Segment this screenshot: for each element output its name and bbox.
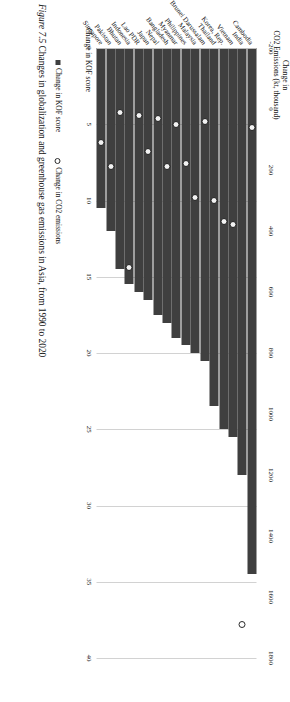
legend-label: Change in KOF score <box>54 68 63 132</box>
bar-kof-score <box>144 48 153 300</box>
figure-stage: Change in CO2 Emissions (kt, thousand) -… <box>30 0 262 702</box>
legend-item: Change in CO2 emissions <box>54 158 63 244</box>
bar-kof-score <box>228 48 237 437</box>
bar-kof-score <box>238 48 247 475</box>
marker-co2-emissions <box>154 115 161 122</box>
top-axis-ticks: -200020040060080010001200140016001800 <box>259 48 262 658</box>
marker-co2-emissions <box>135 112 142 119</box>
bottom-tick-label: 35 <box>85 578 93 585</box>
grid-line <box>97 506 257 507</box>
bar-kof-score <box>172 48 181 338</box>
marker-co2-emissions <box>220 218 227 225</box>
bottom-tick-label: 30 <box>85 502 93 509</box>
bar-kof-score <box>181 48 190 345</box>
figure-caption-text: Changes in globalization and greenhouse … <box>37 46 47 358</box>
legend-item: Change in KOF score <box>54 60 63 132</box>
grid-line <box>97 582 257 583</box>
bar-kof-score <box>200 48 209 361</box>
marker-co2-emissions <box>117 109 124 116</box>
marker-co2-emissions <box>248 124 255 131</box>
figure-caption: Figure 7.5 Changes in globalization and … <box>36 4 47 698</box>
legend-circle-icon <box>55 158 61 164</box>
bottom-tick-label: 25 <box>85 426 93 433</box>
bar-kof-score <box>106 48 115 231</box>
bottom-axis-ticks: 0510152025303540 <box>79 48 93 658</box>
bar-kof-score <box>134 48 143 292</box>
bar-kof-score <box>116 48 125 269</box>
axis-line-zero <box>97 48 257 49</box>
bar-kof-score <box>210 48 219 406</box>
bottom-tick-label: 20 <box>85 350 93 357</box>
bottom-tick-label: 40 <box>85 655 93 662</box>
figure-number: Figure 7.5 <box>37 4 47 43</box>
bottom-tick-label: 5 <box>85 123 93 127</box>
bar-kof-score <box>219 48 228 429</box>
bar-kof-score <box>125 48 134 284</box>
legend-square-icon <box>56 60 61 65</box>
bottom-axis-title: Change in KOF score <box>84 0 93 120</box>
bar-kof-score <box>97 48 106 208</box>
grid-line <box>97 658 257 659</box>
bar-kof-score <box>153 48 162 315</box>
chart-legend: Change in KOF scoreChange in CO2 emissio… <box>54 60 63 244</box>
bottom-tick-label: 15 <box>85 273 93 280</box>
marker-co2-emissions <box>239 621 246 628</box>
bar-kof-score <box>163 48 172 323</box>
marker-co2-emissions <box>201 118 208 125</box>
legend-label: Change in CO2 emissions <box>54 167 63 244</box>
bottom-tick-label: 10 <box>85 197 93 204</box>
plot-area: CambodiaIndiaVietnamKorea, Rep.ThailandB… <box>97 48 257 658</box>
